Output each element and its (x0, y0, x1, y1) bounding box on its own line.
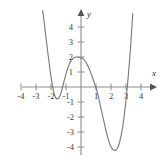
y-tick-label-3: 3 (69, 37, 73, 47)
graph-figure: -4 -3 -2 -1 1 2 3 4 4 3 2 1 -1 -2 -3 -4 … (0, 0, 164, 164)
y-tick-label--1: -1 (67, 97, 74, 107)
y-axis-label: y (86, 9, 91, 19)
x-tick-label-2: 2 (109, 91, 113, 101)
polynomial-curve (43, 11, 133, 151)
x-tick-label-4: 4 (139, 91, 144, 101)
y-axis-arrow-icon (78, 9, 85, 16)
y-tick-label--2: -2 (67, 112, 74, 122)
coordinate-plot: -4 -3 -2 -1 1 2 3 4 4 3 2 1 -1 -2 -3 -4 … (0, 0, 164, 164)
x-axis-arrow-icon (150, 84, 157, 91)
y-tick-label--3: -3 (67, 127, 74, 137)
axes-group (22, 9, 157, 155)
x-axis-label: x (151, 68, 156, 78)
y-tick-label--4: -4 (67, 142, 75, 152)
y-tick-label-4: 4 (69, 22, 74, 32)
x-tick-label--4: -4 (17, 91, 25, 101)
y-tick-label-1: 1 (69, 67, 73, 77)
x-tick-label--3: -3 (32, 91, 39, 101)
